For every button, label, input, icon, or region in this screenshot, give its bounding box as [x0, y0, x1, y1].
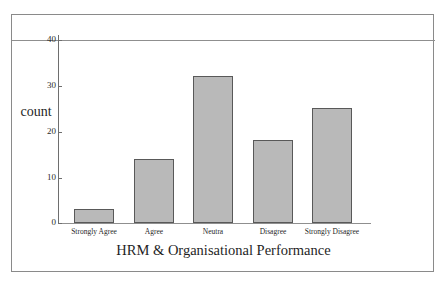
plot-area: 40 30 20 10 0 count Strongly Agree Agree… [12, 15, 435, 273]
y-axis-line [58, 35, 59, 224]
y-tick-mark-20 [58, 132, 62, 133]
y-tick-label-30: 30 [16, 81, 56, 90]
bar-neutra [193, 76, 233, 223]
figure-frame: 40 30 20 10 0 count Strongly Agree Agree… [11, 14, 434, 272]
ghost-header-text [0, 0, 447, 12]
x-category-label-strongly-disagree: Strongly Disagree [292, 227, 372, 237]
y-tick-mark-0 [58, 223, 62, 224]
y-axis-title: count [14, 104, 58, 120]
x-axis-title: HRM & Organisational Performance [12, 241, 435, 259]
y-tick-mark-40 [58, 40, 62, 41]
y-tick-label-20: 20 [16, 127, 56, 136]
bar-disagree [253, 140, 293, 223]
y-tick-label-0: 0 [16, 218, 56, 227]
bar-strongly-disagree [312, 108, 352, 223]
y-tick-mark-10 [58, 178, 62, 179]
top-rule-line [12, 40, 435, 41]
x-axis-line [58, 223, 371, 224]
y-tick-label-40: 40 [16, 35, 56, 44]
bar-strongly-agree [74, 209, 114, 223]
bar-agree [134, 159, 174, 223]
y-tick-mark-30 [58, 86, 62, 87]
y-tick-label-10: 10 [16, 173, 56, 182]
